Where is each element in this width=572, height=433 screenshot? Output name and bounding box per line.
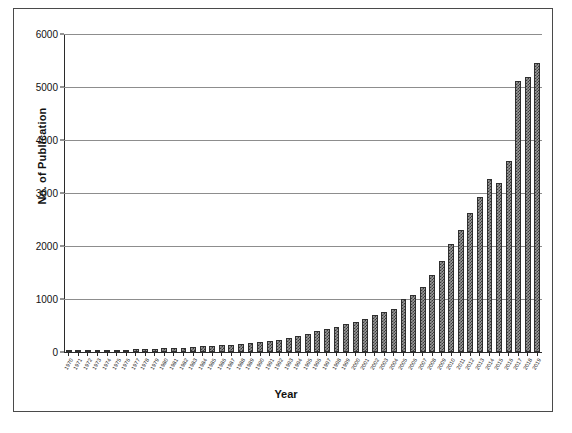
x-label-slot: 1987	[227, 357, 237, 385]
x-tick-slot	[466, 352, 476, 356]
bar-slot	[246, 34, 256, 352]
bar-slot	[112, 34, 122, 352]
bar-2010	[448, 244, 454, 352]
x-label-slot: 2019	[533, 357, 543, 385]
x-label-slot: 2008	[427, 357, 437, 385]
bar-2014	[487, 179, 493, 352]
x-tick-label-1989: 1989	[244, 357, 255, 371]
bar-2004	[391, 309, 397, 352]
x-tick-slot	[74, 352, 84, 356]
x-label-slot: 1978	[141, 357, 151, 385]
x-tick-label-2014: 2014	[483, 357, 494, 371]
x-label-slot: 1972	[83, 357, 93, 385]
x-tick-slot	[227, 352, 237, 356]
x-tick-slot	[265, 352, 275, 356]
x-tick-label-1981: 1981	[168, 357, 179, 371]
x-tick-slot	[217, 352, 227, 356]
x-tick-slot	[112, 352, 122, 356]
x-label-slot: 1999	[341, 357, 351, 385]
bar-slot	[217, 34, 227, 352]
x-tick-slot	[523, 352, 533, 356]
bar-1993	[286, 338, 292, 352]
x-tick-slot	[64, 352, 74, 356]
x-tick-slot	[494, 352, 504, 356]
bar-slot	[437, 34, 447, 352]
x-label-slot: 1971	[74, 357, 84, 385]
x-label-slot: 2001	[360, 357, 370, 385]
x-tick-label-1993: 1993	[283, 357, 294, 371]
x-tick-mark-2001	[365, 352, 366, 356]
x-tick-label-1992: 1992	[273, 357, 284, 371]
x-tick-slot	[93, 352, 103, 356]
x-tick-label-1985: 1985	[206, 357, 217, 371]
bar-slot	[294, 34, 304, 352]
x-tick-mark-1984	[202, 352, 203, 356]
x-tick-label-1996: 1996	[311, 357, 322, 371]
x-tick-mark-1975	[116, 352, 117, 356]
x-tick-slot	[179, 352, 189, 356]
x-tick-label-1974: 1974	[101, 357, 112, 371]
bar-slot	[466, 34, 476, 352]
bar-slot	[160, 34, 170, 352]
x-tick-slot	[418, 352, 428, 356]
x-tick-slot	[485, 352, 495, 356]
x-axis-title: Year	[0, 388, 572, 400]
x-tick-mark-1999	[346, 352, 347, 356]
x-label-slot: 1982	[179, 357, 189, 385]
x-tick-mark-2018	[527, 352, 528, 356]
bar-2008	[429, 275, 435, 352]
bar-1986	[219, 345, 225, 352]
x-tick-mark-1989	[250, 352, 251, 356]
x-label-slot: 2015	[494, 357, 504, 385]
x-tick-label-2010: 2010	[445, 357, 456, 371]
x-tick-mark-2017	[518, 352, 519, 356]
x-tick-label-2015: 2015	[493, 357, 504, 371]
x-tick-mark-1998	[336, 352, 337, 356]
bar-1999	[343, 324, 349, 352]
bar-series	[64, 34, 542, 352]
bar-slot	[447, 34, 457, 352]
bar-1989	[248, 343, 254, 352]
x-tick-label-2019: 2019	[531, 357, 542, 371]
x-label-slot: 1976	[121, 357, 131, 385]
x-tick-slot	[246, 352, 256, 356]
x-tick-mark-1972	[87, 352, 88, 356]
bar-slot	[141, 34, 151, 352]
x-tick-slot	[370, 352, 380, 356]
x-label-slot: 2018	[523, 357, 533, 385]
x-label-slot: 2000	[351, 357, 361, 385]
x-tick-label-2009: 2009	[436, 357, 447, 371]
bar-slot	[179, 34, 189, 352]
y-tick-label-1000: 1000	[36, 294, 58, 305]
x-tick-mark-1983	[193, 352, 194, 356]
x-tick-slot	[255, 352, 265, 356]
x-tick-slot	[399, 352, 409, 356]
y-tick-label-0: 0	[52, 347, 58, 358]
x-tick-mark-1979	[154, 352, 155, 356]
x-label-slot: 2010	[447, 357, 457, 385]
y-tick-label-3000: 3000	[36, 188, 58, 199]
x-tick-slot	[131, 352, 141, 356]
bar-2011	[458, 230, 464, 352]
bar-slot	[513, 34, 523, 352]
x-tick-mark-2004	[393, 352, 394, 356]
x-tick-mark-1978	[145, 352, 146, 356]
x-tick-slot	[408, 352, 418, 356]
bar-slot	[380, 34, 390, 352]
x-tick-label-1995: 1995	[302, 357, 313, 371]
x-tick-mark-1995	[307, 352, 308, 356]
bar-slot	[456, 34, 466, 352]
x-tick-slot	[236, 352, 246, 356]
x-tick-label-1982: 1982	[177, 357, 188, 371]
bar-2003	[381, 312, 387, 352]
y-tick-label-5000: 5000	[36, 82, 58, 93]
bar-2000	[353, 322, 359, 352]
x-label-slot: 1973	[93, 357, 103, 385]
bar-slot	[274, 34, 284, 352]
x-label-slot: 1989	[246, 357, 256, 385]
x-tick-label-2001: 2001	[359, 357, 370, 371]
bar-slot	[265, 34, 275, 352]
x-label-slot: 1998	[332, 357, 342, 385]
bar-slot	[227, 34, 237, 352]
bar-2006	[410, 295, 416, 352]
